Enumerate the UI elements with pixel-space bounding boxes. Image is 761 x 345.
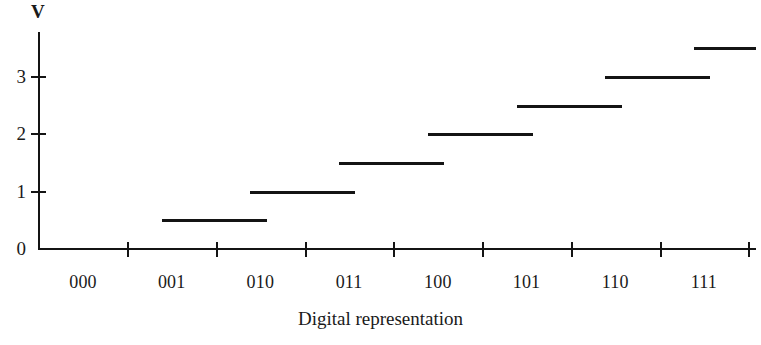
x-tick-label-011: 011 — [309, 272, 389, 292]
x-tick-label-111: 111 — [664, 272, 744, 292]
y-tick-label-3: 3 — [0, 67, 26, 86]
y-tick-label-0: 0 — [0, 239, 26, 258]
x-axis-line — [38, 248, 756, 250]
chart-figure: V 0123 000001010011100101110111 Digital … — [0, 0, 761, 345]
step-110 — [605, 76, 710, 79]
y-tick-1 — [31, 191, 46, 193]
x-axis-title: Digital representation — [0, 308, 761, 330]
x-tick-2 — [305, 242, 307, 257]
y-axis-label: V — [31, 2, 45, 22]
x-tick-label-110: 110 — [575, 272, 655, 292]
x-tick-label-010: 010 — [220, 272, 300, 292]
step-101 — [517, 105, 622, 108]
y-tick-label-1: 1 — [0, 182, 26, 201]
step-011 — [339, 162, 444, 165]
x-tick-label-001: 001 — [132, 272, 212, 292]
x-tick-7 — [748, 242, 750, 257]
x-tick-1 — [216, 242, 218, 257]
y-tick-label-2: 2 — [0, 124, 26, 143]
x-tick-0 — [127, 242, 129, 257]
step-001 — [162, 219, 267, 222]
y-tick-3 — [31, 76, 46, 78]
y-tick-2 — [31, 133, 46, 135]
x-tick-6 — [660, 242, 662, 257]
step-010 — [250, 191, 355, 194]
step-111 — [694, 47, 756, 50]
y-axis-line — [38, 32, 40, 250]
x-tick-label-101: 101 — [487, 272, 567, 292]
x-tick-label-100: 100 — [398, 272, 478, 292]
x-tick-3 — [393, 242, 395, 257]
x-tick-4 — [482, 242, 484, 257]
step-100 — [428, 133, 533, 136]
x-tick-label-000: 000 — [43, 272, 123, 292]
x-tick-5 — [571, 242, 573, 257]
